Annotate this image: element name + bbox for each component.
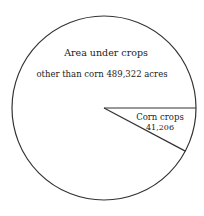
label-corn-line2: 41,206 (146, 123, 174, 132)
label-corn-line1: Corn crops (136, 112, 184, 122)
label-other-line1: Area under crops (63, 47, 148, 58)
pie-chart: Area under crops other than corn 489,322… (0, 0, 204, 216)
label-other-line2: other than corn 489,322 acres (36, 69, 167, 79)
